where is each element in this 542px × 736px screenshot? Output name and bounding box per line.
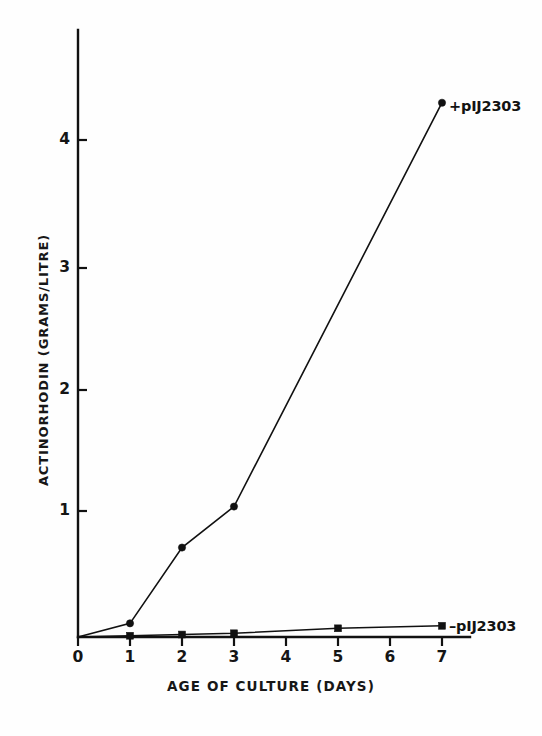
series-layer [78, 99, 446, 639]
series-line-plus-pij2303 [78, 103, 442, 637]
x-tick-label-1: 1 [120, 650, 140, 666]
x-tick-label-3: 3 [224, 650, 244, 666]
series-label-plus-pij2303: +pIJ2303 [449, 98, 521, 114]
x-tick-label-7: 7 [432, 650, 452, 666]
chart-figure: 1 2 3 4 0 1 2 3 4 5 6 7 AGE OF CULTURE (… [0, 0, 542, 736]
data-point-marker-circle [438, 99, 445, 106]
data-point-marker-square [439, 622, 446, 629]
x-tick-label-0: 0 [68, 650, 88, 666]
data-point-marker-square [179, 631, 186, 638]
data-point-marker-circle [126, 620, 133, 627]
y-tick-label-3: 3 [50, 260, 70, 276]
x-tick-label-6: 6 [380, 650, 400, 666]
data-point-marker-circle [178, 544, 185, 551]
y-tick-label-4: 4 [50, 132, 70, 148]
x-tick-label-2: 2 [172, 650, 192, 666]
data-point-marker-square [127, 632, 134, 639]
data-point-marker-square [335, 625, 342, 632]
x-tick-label-5: 5 [328, 650, 348, 666]
x-tick-label-4: 4 [276, 650, 296, 666]
data-point-marker-circle [230, 503, 237, 510]
y-tick-label-1: 1 [50, 503, 70, 519]
y-tick-label-2: 2 [50, 382, 70, 398]
data-point-marker-square [231, 630, 238, 637]
series-label-minus-pij2303: –pIJ2303 [449, 618, 516, 634]
y-axis-title: ACTINORHODIN (GRAMS/LITRE) [36, 160, 51, 560]
x-axis-title: AGE OF CULTURE (DAYS) [0, 678, 542, 694]
